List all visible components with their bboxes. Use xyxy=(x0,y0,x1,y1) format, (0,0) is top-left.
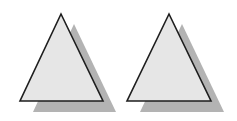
diagram-canvas xyxy=(0,0,237,121)
